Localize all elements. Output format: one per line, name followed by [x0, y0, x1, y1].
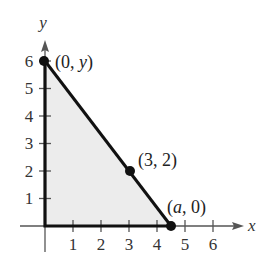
point-label-0-y: (0, y): [55, 52, 93, 73]
x-tick-label: 1: [69, 235, 78, 254]
y-tick-label: 5: [25, 79, 34, 98]
point-0-y: [39, 56, 49, 66]
y-tick-label: 2: [25, 162, 34, 181]
point-a-0: [166, 221, 176, 231]
point-label-a-0: (a, 0): [167, 197, 206, 218]
x-tick-label: 3: [125, 235, 134, 254]
x-tick-label: 6: [209, 235, 218, 254]
x-axis-label: x: [247, 216, 256, 235]
point-label-3-2: (3, 2): [138, 150, 177, 171]
y-tick-label: 6: [25, 52, 34, 71]
point-3-2: [125, 166, 135, 176]
x-tick-label: 5: [181, 235, 190, 254]
x-tick-label: 2: [97, 235, 106, 254]
y-tick-label: 1: [25, 189, 34, 208]
y-tick-label: 4: [25, 107, 34, 126]
y-tick-label: 3: [25, 134, 34, 153]
triangle-diagram: 1 2 3 4 5 6 1 2 3 4 5 6 x y (0, y) (3, 2…: [0, 0, 270, 264]
coordinate-plane: 1 2 3 4 5 6 1 2 3 4 5 6 x y (0, y) (3, 2…: [0, 0, 270, 264]
x-tick-label: 4: [153, 235, 162, 254]
y-axis-label: y: [37, 13, 47, 32]
